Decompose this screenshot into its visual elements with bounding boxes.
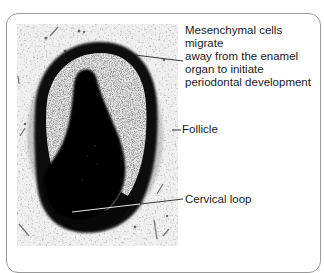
mesenchymal-label-line-1: Mesenchymal cells migrate xyxy=(185,24,320,50)
mesenchymal-cells-label: Mesenchymal cells migrate away from the … xyxy=(185,24,320,89)
tooth-germ-micrograph xyxy=(17,24,178,246)
follicle-label: Follicle xyxy=(182,123,218,136)
mesenchymal-label-line-3: organ to initiate xyxy=(185,63,320,76)
mesenchymal-label-line-2: away from the enamel xyxy=(185,50,320,63)
cervical-loop-label: Cervical loop xyxy=(185,193,251,206)
mesenchymal-label-line-4: periodontal development xyxy=(185,76,320,89)
